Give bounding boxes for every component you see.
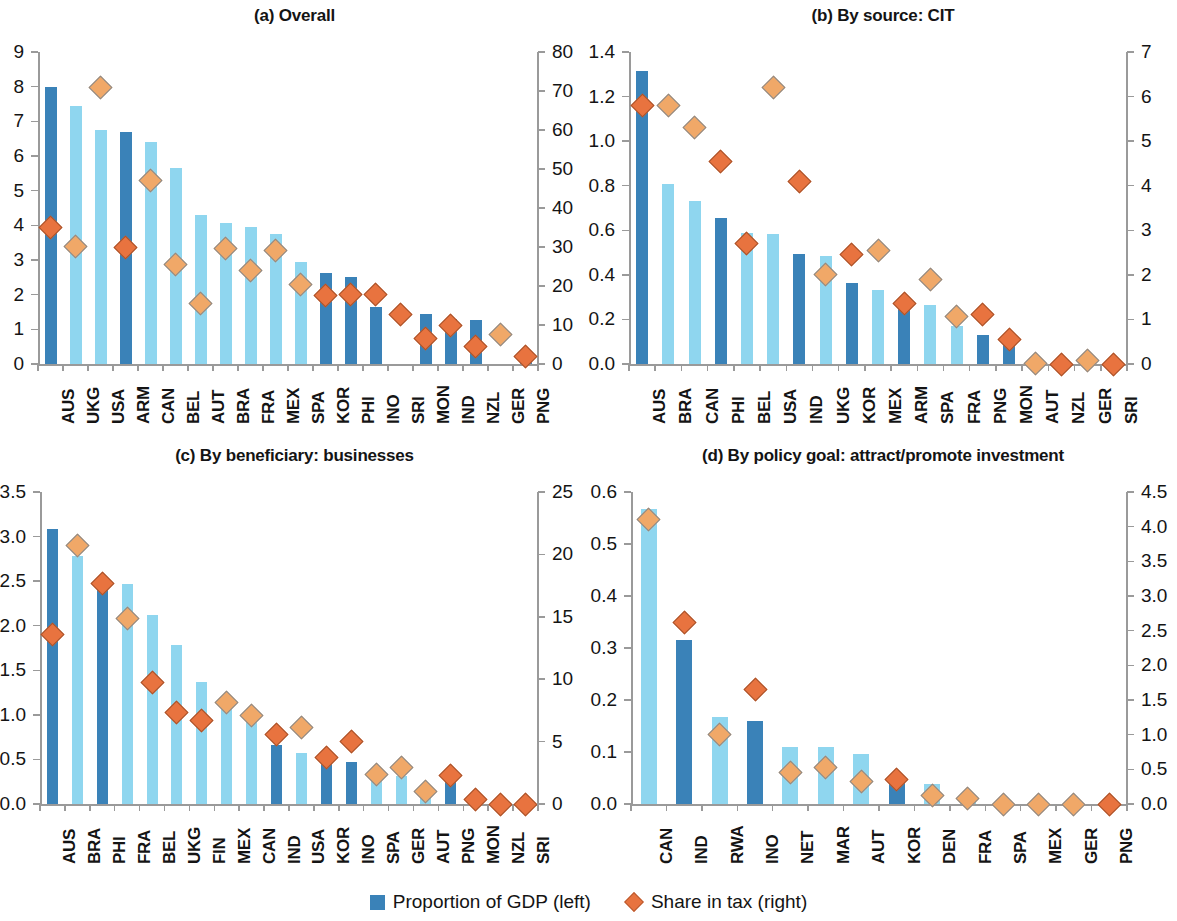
diamond-marker: [840, 243, 864, 267]
x-axis-label: AUT: [869, 830, 889, 864]
left-tick-label: 1: [0, 319, 24, 338]
panel-d: (d) By policy goal: attract/promote inve…: [589, 440, 1177, 881]
x-tick: [772, 804, 774, 811]
x-tick: [701, 804, 703, 811]
panel-b-plot: 0.00.20.40.60.81.01.21.401234567: [629, 52, 1127, 364]
right-tick: [1127, 185, 1134, 187]
x-tick: [1020, 804, 1022, 811]
x-axis-label: PHI: [729, 397, 749, 424]
x-axis-label: AUS: [59, 389, 79, 424]
diamond-marker: [40, 622, 64, 646]
x-axis-label: CAN: [260, 828, 280, 864]
x-axis-label: AUT: [434, 830, 454, 864]
right-tick: [538, 246, 545, 248]
left-tick: [622, 140, 629, 142]
bar: [346, 762, 357, 804]
panel-c-plot: 0.00.51.01.52.02.53.03.50510152025: [40, 492, 538, 804]
diamond-marker: [997, 327, 1021, 351]
right-tick: [1127, 230, 1134, 232]
x-axis-label: SRI: [409, 397, 429, 424]
x-axis-label: BEL: [160, 831, 180, 864]
left-tick: [624, 751, 631, 753]
right-tick-label: 1.0: [1141, 725, 1177, 744]
bar: [396, 776, 407, 804]
left-tick-label: 1.2: [569, 87, 615, 106]
diamond-marker: [190, 708, 214, 732]
right-tick: [538, 285, 545, 287]
x-tick: [890, 364, 892, 371]
x-axis-label: MEX: [235, 828, 255, 864]
legend-label-diamonds: Share in tax (right): [651, 891, 807, 913]
x-tick: [487, 364, 489, 371]
right-tick-label: 3.5: [1141, 551, 1177, 570]
left-tick-label: 1.5: [0, 660, 26, 679]
x-tick: [985, 804, 987, 811]
left-tick-label: 0.6: [569, 220, 615, 239]
panel-d-title: (d) By policy goal: attract/promote inve…: [589, 446, 1177, 466]
x-axis-label: UKG: [185, 827, 205, 864]
left-tick: [33, 491, 40, 493]
diamond-marker: [1097, 792, 1121, 816]
panel-c: (c) By beneficiary: businesses 0.00.51.0…: [0, 440, 589, 881]
right-tick-label: 4: [1141, 176, 1177, 195]
x-axis-label: BEL: [755, 391, 775, 424]
right-tick: [538, 168, 545, 170]
diamond-marker: [90, 571, 114, 595]
right-tick-label: 2.0: [1141, 655, 1177, 674]
x-axis-label: NZL: [509, 832, 529, 864]
diamond-marker: [140, 671, 164, 695]
x-axis-label: UKG: [834, 387, 854, 424]
diamond-marker: [709, 149, 733, 173]
bar: [72, 556, 83, 804]
left-tick-label: 0.5: [0, 749, 26, 768]
charts-grid: (a) Overall 012345678901020304050607080 …: [0, 0, 1177, 881]
x-tick: [238, 804, 240, 811]
x-tick: [189, 804, 191, 811]
right-tick: [1127, 319, 1134, 321]
diamond-marker: [63, 234, 87, 258]
right-tick: [538, 803, 545, 805]
diamond-marker: [288, 272, 312, 296]
right-tick: [538, 741, 545, 743]
x-axis-label: BRA: [676, 388, 696, 424]
x-tick: [943, 364, 945, 371]
right-tick: [538, 554, 545, 556]
x-axis-label: IND: [459, 396, 479, 424]
bar: [793, 254, 805, 364]
left-tick-label: 0.8: [569, 176, 615, 195]
bar: [271, 745, 282, 804]
diamond-marker: [672, 610, 696, 634]
right-tick: [538, 90, 545, 92]
diamond-marker: [489, 792, 513, 816]
x-tick: [630, 804, 632, 811]
right-tick: [1127, 803, 1134, 805]
diamond-marker: [514, 792, 538, 816]
bar: [221, 703, 232, 804]
left-tick-label: 0.4: [569, 265, 615, 284]
x-axis-label: SPA: [1011, 831, 1031, 864]
x-tick: [164, 804, 166, 811]
left-tick-label: 4: [0, 215, 24, 234]
x-tick: [413, 804, 415, 811]
left-tick-label: 3: [0, 250, 24, 269]
x-tick: [139, 804, 141, 811]
diamond-marker: [163, 253, 187, 277]
x-tick: [914, 804, 916, 811]
x-axis-label: MEX: [1046, 828, 1066, 864]
x-tick: [812, 364, 814, 371]
diamond-marker: [38, 215, 62, 239]
x-tick: [37, 364, 39, 371]
x-tick: [112, 364, 114, 371]
bar: [370, 307, 382, 364]
x-axis-label: SPA: [938, 391, 958, 424]
left-tick: [622, 51, 629, 53]
left-tick: [31, 190, 38, 192]
diamond-marker: [363, 283, 387, 307]
left-tick: [33, 759, 40, 761]
right-tick: [1127, 51, 1134, 53]
right-tick-label: 1.5: [1141, 690, 1177, 709]
x-tick: [969, 364, 971, 371]
diamond-marker: [1023, 351, 1047, 375]
x-tick: [362, 364, 364, 371]
diamond-marker: [682, 116, 706, 140]
